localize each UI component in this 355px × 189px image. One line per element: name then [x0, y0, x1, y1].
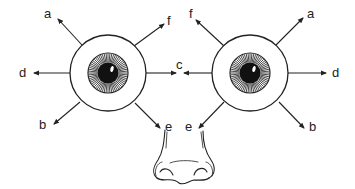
label-left-e: e — [165, 120, 172, 133]
right-eye — [212, 35, 288, 111]
arrow-right-b — [279, 102, 304, 128]
arrow-right-e — [199, 102, 224, 128]
left-eye — [70, 35, 146, 111]
left-iris-icon — [88, 53, 128, 93]
diagram-svg — [0, 0, 355, 189]
eye-movement-diagram: a f d c b e f a d e b — [0, 0, 355, 189]
arrow-right-f — [196, 20, 224, 46]
nose-icon — [154, 130, 214, 184]
label-right-a: a — [307, 7, 314, 20]
arrow-right-a — [276, 18, 303, 45]
right-iris-icon — [230, 53, 270, 93]
label-left-f: f — [167, 14, 171, 27]
arrow-left-a — [58, 19, 82, 45]
arrow-left-e — [135, 103, 160, 128]
label-left-d: d — [19, 66, 26, 79]
label-left-a: a — [44, 7, 51, 20]
label-c: c — [176, 58, 183, 71]
label-left-b: b — [39, 118, 46, 131]
arrow-left-b — [54, 102, 80, 124]
arrow-left-f — [134, 24, 164, 46]
label-right-e: e — [185, 120, 192, 133]
label-right-f: f — [189, 7, 193, 20]
label-right-b: b — [309, 120, 316, 133]
label-right-d: d — [332, 66, 339, 79]
